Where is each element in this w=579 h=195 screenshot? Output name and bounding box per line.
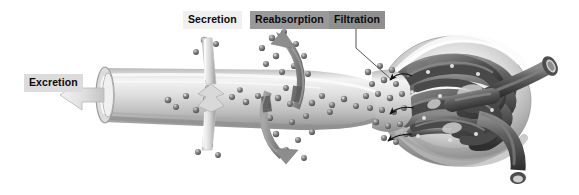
label-reabsorption: Reabsorption: [250, 11, 329, 29]
nephron-figure: Excretion Secretion Reabsorption Filtrat…: [0, 0, 579, 195]
label-secretion: Secretion: [183, 11, 242, 29]
label-filtration: Filtration: [329, 11, 385, 29]
arteriole-trunk: [452, 94, 492, 104]
nephron-illustration: [0, 0, 579, 195]
secretion-arrow: [198, 38, 224, 150]
label-excretion: Excretion: [24, 74, 83, 92]
renal-tubule: [96, 67, 412, 132]
